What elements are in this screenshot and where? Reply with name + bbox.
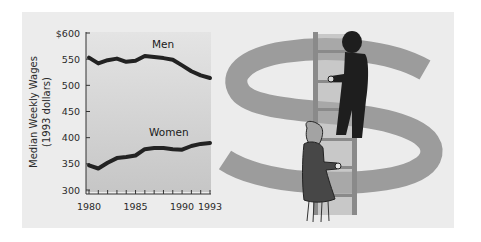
y-tick-label: 450 <box>62 106 80 117</box>
x-tick-label: 1980 <box>77 201 101 212</box>
line-chart: $600550500450400350300 1980198519901993 … <box>28 28 222 213</box>
y-axis-subtitle: (1993 dollars) <box>41 77 52 147</box>
y-tick-label: 300 <box>62 185 80 196</box>
y-tick-label: 350 <box>62 158 80 169</box>
x-tick-label: 1990 <box>170 201 194 212</box>
y-tick-label: 500 <box>62 80 80 91</box>
y-tick-label: $600 <box>56 28 80 39</box>
x-ticks: 1980198519901993 <box>77 190 222 212</box>
series-label-men: Men <box>152 38 174 50</box>
x-tick-label: 1985 <box>123 201 147 212</box>
y-tick-label: 400 <box>62 132 80 143</box>
y-ticks: $600550500450400350300 <box>56 28 90 196</box>
y-axis-title: Median Weekly Wages <box>28 56 39 168</box>
illustration <box>225 31 432 222</box>
figure: $600550500450400350300 1980198519901993 … <box>0 0 481 242</box>
y-tick-label: 550 <box>62 54 80 65</box>
series-label-women: Women <box>149 126 189 138</box>
x-tick-label: 1993 <box>198 201 222 212</box>
